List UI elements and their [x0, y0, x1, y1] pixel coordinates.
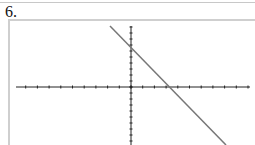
x-axis [16, 86, 250, 89]
y-axis [130, 26, 133, 145]
coordinate-graph [0, 0, 255, 145]
plotted-line [110, 26, 226, 145]
